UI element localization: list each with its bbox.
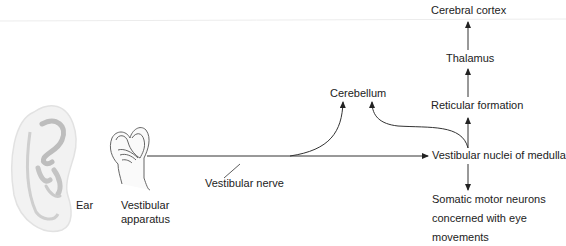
label-thalamus: Thalamus	[446, 52, 494, 65]
nerve-to-cerebellum-arrow	[290, 102, 343, 156]
label-somatic-motor-2: concerned with eye	[432, 212, 527, 225]
vestibular-apparatus-illustration	[110, 128, 150, 190]
label-vestibular-nuclei: Vestibular nuclei of medulla	[432, 149, 566, 162]
label-somatic-motor-3: movements	[432, 231, 489, 244]
label-vestibular-nerve: Vestibular nerve	[205, 177, 284, 190]
ear-illustration	[12, 106, 76, 232]
vestibular-nerve-leader	[224, 164, 240, 178]
label-ear: Ear	[76, 199, 93, 212]
label-vestibular-apparatus-2: apparatus	[121, 213, 170, 226]
label-somatic-motor-1: Somatic motor neurons	[432, 193, 546, 206]
label-cerebellum: Cerebellum	[330, 87, 386, 100]
label-reticular-formation: Reticular formation	[431, 99, 523, 112]
diagram-canvas: Ear Vestibular apparatus Vestibular nerv…	[0, 0, 566, 246]
label-vestibular-apparatus-1: Vestibular	[121, 199, 169, 212]
label-cerebral-cortex: Cerebral cortex	[431, 4, 506, 17]
top-rule	[0, 19, 566, 21]
